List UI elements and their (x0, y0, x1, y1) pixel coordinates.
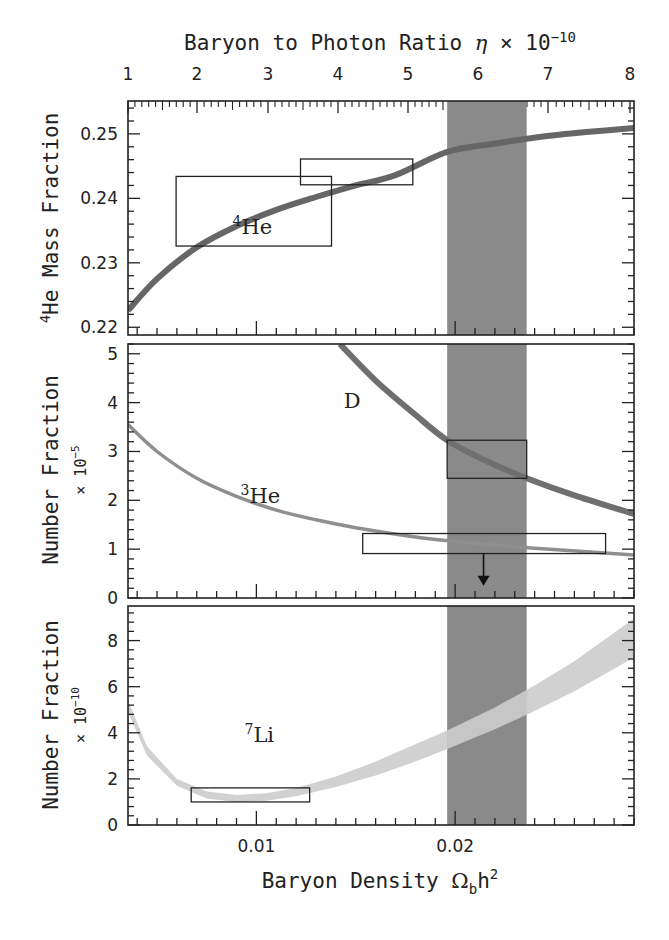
series-label: 4He (233, 213, 273, 239)
bottom-axis-title: Baryon Density Ωbh2 (262, 866, 499, 897)
bbn-abundance-chart: Baryon to Photon Ratio η × 10−10 1234567… (0, 0, 669, 940)
y-tick-label: 5 (107, 344, 118, 364)
top-tick-label: 3 (263, 64, 274, 84)
y-tick-label: 2 (107, 490, 118, 510)
yscale-label-bottom: × 10−10 (69, 687, 90, 743)
top-tick-label: 7 (543, 64, 554, 84)
y-tick-label: 3 (107, 441, 118, 461)
y-tick-label: 0.23 (80, 253, 118, 273)
top-axis-tick-labels: 12345678 (123, 64, 636, 113)
series-label: 3He (240, 482, 280, 508)
y-tick-label: 4 (107, 723, 118, 743)
curve-7Li (128, 618, 634, 802)
y-tick-label: 0.25 (80, 124, 118, 144)
y-tick-label: 0.22 (80, 317, 118, 337)
top-tick-label: 2 (192, 64, 203, 84)
y-tick-label: 6 (107, 677, 118, 697)
panel-li7: 7Li02468 (107, 606, 634, 835)
top-axis-title: Baryon to Photon Ratio η × 10−10 (184, 29, 576, 55)
he4-ylabel: 4He Mass Fraction (37, 113, 63, 324)
panel-d_he3: D3He012345 (107, 344, 634, 608)
panel-he4: 4He0.220.230.240.25 (80, 101, 634, 337)
y-tick-label: 0 (107, 588, 118, 608)
series-label: D (344, 389, 361, 413)
number-fraction-ylabel-bottom: Number Fraction (39, 620, 63, 810)
bottom-axis-tick-labels: 0.010.02 (237, 836, 474, 856)
y-tick-label: 8 (107, 631, 118, 651)
y-tick-label: 4 (107, 393, 118, 413)
y-tick-label: 0.24 (80, 188, 118, 208)
yscale-label-mid: × 10−5 (69, 445, 90, 494)
x-tick-label: 0.01 (237, 836, 275, 856)
curve-4He (128, 128, 634, 310)
shaded-band (447, 101, 526, 335)
y-tick-label: 2 (107, 769, 118, 789)
top-tick-label: 5 (403, 64, 414, 84)
x-tick-label: 0.02 (436, 836, 474, 856)
chart-panels: 4He0.220.230.240.25D3He0123457Li02468 (80, 101, 634, 835)
number-fraction-ylabel-mid: Number Fraction (39, 375, 63, 565)
top-tick-label: 6 (473, 64, 484, 84)
y-tick-label: 0 (107, 815, 118, 835)
top-tick-label: 4 (333, 64, 344, 84)
series-label: 7Li (244, 721, 274, 747)
top-tick-label: 8 (625, 64, 636, 84)
top-tick-label: 1 (123, 64, 134, 84)
y-tick-label: 1 (107, 539, 118, 559)
